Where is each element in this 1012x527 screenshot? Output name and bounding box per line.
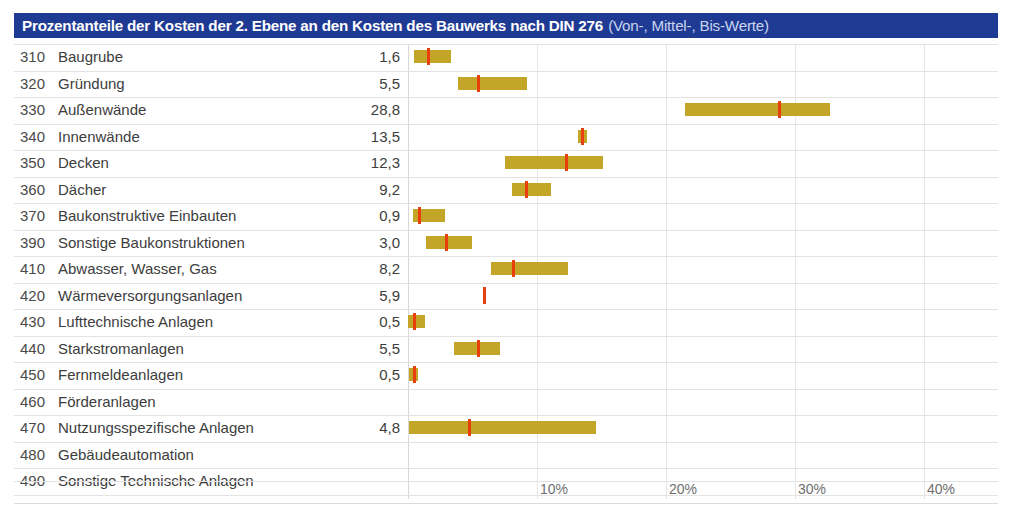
table-row[interactable]: 410Abwasser, Wasser, Gas8,2 — [0, 256, 1012, 283]
row-label: Baukonstruktive Einbauten — [58, 203, 236, 230]
row-mean-value: 5,9 — [300, 283, 400, 310]
row-label: Fernmeldeanlagen — [58, 362, 183, 389]
mean-marker — [445, 234, 448, 251]
row-code: 420 — [20, 283, 45, 310]
mean-marker — [581, 128, 584, 145]
row-mean-value: 0,5 — [300, 309, 400, 336]
row-code: 310 — [20, 44, 45, 71]
table-row[interactable]: 360Dächer9,2 — [0, 177, 1012, 204]
row-mean-value: 28,8 — [300, 97, 400, 124]
row-label: Baugrube — [58, 44, 123, 71]
axis-top-rule — [14, 481, 998, 482]
table-row[interactable]: 310Baugrube1,6 — [0, 44, 1012, 71]
chart-subtitle: (Von-, Mittel-, Bis-Werte) — [608, 17, 769, 34]
x-axis: 10%20%30%40% — [0, 481, 1012, 505]
mean-marker — [468, 419, 471, 436]
table-row[interactable]: 420Wärmeversorgungsanlagen5,9 — [0, 283, 1012, 310]
range-bar — [505, 156, 603, 169]
table-row[interactable]: 430Lufttechnische Anlagen0,5 — [0, 309, 1012, 336]
table-row[interactable]: 340Innenwände13,5 — [0, 124, 1012, 151]
table-row[interactable]: 350Decken12,3 — [0, 150, 1012, 177]
table-row[interactable]: 480Gebäudeautomation — [0, 442, 1012, 469]
row-code: 370 — [20, 203, 45, 230]
range-bar — [512, 183, 551, 196]
row-mean-value: 0,9 — [300, 203, 400, 230]
table-row[interactable]: 470Nutzungsspezifische Anlagen4,8 — [0, 415, 1012, 442]
row-label: Abwasser, Wasser, Gas — [58, 256, 217, 283]
mean-marker — [413, 313, 416, 330]
row-code: 320 — [20, 71, 45, 98]
row-mean-value: 4,8 — [300, 415, 400, 442]
mean-marker — [427, 48, 430, 65]
table-row[interactable]: 440Starkstromanlagen5,5 — [0, 336, 1012, 363]
row-mean-value: 5,5 — [300, 336, 400, 363]
mean-marker — [477, 340, 480, 357]
mean-marker — [483, 287, 486, 304]
table-row[interactable]: 320Gründung5,5 — [0, 71, 1012, 98]
row-mean-value: 3,0 — [300, 230, 400, 257]
mean-marker — [413, 366, 416, 383]
row-label: Gründung — [58, 71, 125, 98]
row-code: 450 — [20, 362, 45, 389]
row-mean-value: 0,5 — [300, 362, 400, 389]
table-row[interactable]: 460Förderanlagen — [0, 389, 1012, 416]
range-bar — [409, 421, 596, 434]
chart-title: Prozentanteile der Kosten der 2. Ebene a… — [22, 17, 603, 34]
mean-marker — [525, 181, 528, 198]
mean-marker — [477, 75, 480, 92]
row-code: 430 — [20, 309, 45, 336]
row-code: 410 — [20, 256, 45, 283]
chart-title-bar: Prozentanteile der Kosten der 2. Ebene a… — [14, 13, 998, 38]
row-label: Decken — [58, 150, 109, 177]
row-code: 480 — [20, 442, 45, 469]
range-bar — [491, 262, 568, 275]
row-code: 460 — [20, 389, 45, 416]
row-code: 440 — [20, 336, 45, 363]
row-label: Sonstige Baukonstruktionen — [58, 230, 245, 257]
row-label: Innenwände — [58, 124, 140, 151]
row-mean-value: 5,5 — [300, 71, 400, 98]
row-code: 330 — [20, 97, 45, 124]
range-bar — [414, 50, 450, 63]
x-tick-label: 30% — [798, 481, 826, 497]
mean-marker — [418, 207, 421, 224]
row-mean-value: 8,2 — [300, 256, 400, 283]
row-label: Starkstromanlagen — [58, 336, 184, 363]
row-label: Außenwände — [58, 97, 146, 124]
row-code: 340 — [20, 124, 45, 151]
row-code: 470 — [20, 415, 45, 442]
row-label: Förderanlagen — [58, 389, 156, 416]
axis-bottom-rule — [14, 503, 998, 504]
table-row[interactable]: 330Außenwände28,8 — [0, 97, 1012, 124]
row-code: 360 — [20, 177, 45, 204]
table-row[interactable]: 390Sonstige Baukonstruktionen3,0 — [0, 230, 1012, 257]
range-bar — [426, 236, 472, 249]
row-label: Lufttechnische Anlagen — [58, 309, 213, 336]
row-label: Gebäudeautomation — [58, 442, 194, 469]
row-label: Nutzungsspezifische Anlagen — [58, 415, 254, 442]
row-mean-value: 13,5 — [300, 124, 400, 151]
x-tick-label: 20% — [669, 481, 697, 497]
row-mean-value — [300, 442, 400, 469]
x-tick-label: 10% — [540, 481, 568, 497]
mean-marker — [512, 260, 515, 277]
row-code: 350 — [20, 150, 45, 177]
row-mean-value: 12,3 — [300, 150, 400, 177]
row-mean-value: 9,2 — [300, 177, 400, 204]
row-mean-value — [300, 389, 400, 416]
row-code: 390 — [20, 230, 45, 257]
mean-marker — [565, 154, 568, 171]
range-bar — [458, 77, 526, 90]
row-label: Dächer — [58, 177, 106, 204]
mean-marker — [778, 101, 781, 118]
row-mean-value: 1,6 — [300, 44, 400, 71]
range-bar — [408, 315, 425, 328]
table-row[interactable]: 370Baukonstruktive Einbauten0,9 — [0, 203, 1012, 230]
row-label: Wärmeversorgungsanlagen — [58, 283, 242, 310]
x-tick-label: 40% — [927, 481, 955, 497]
chart-sheet: Prozentanteile der Kosten der 2. Ebene a… — [0, 0, 1012, 527]
range-bar — [685, 103, 829, 116]
table-row[interactable]: 450Fernmeldeanlagen0,5 — [0, 362, 1012, 389]
